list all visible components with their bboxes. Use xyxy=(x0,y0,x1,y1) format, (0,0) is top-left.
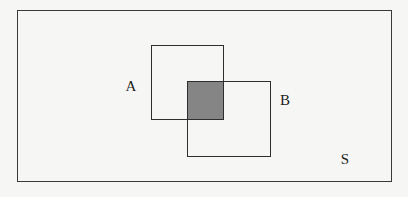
venn-diagram-canvas: A B S xyxy=(0,0,408,197)
set-b-label: B xyxy=(280,93,290,108)
set-b-rectangle xyxy=(187,81,271,157)
set-a-label: A xyxy=(126,79,137,94)
universe-label: S xyxy=(341,152,349,167)
